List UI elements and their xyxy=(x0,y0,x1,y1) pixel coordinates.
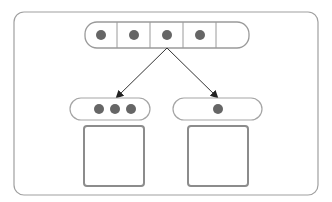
partition-item-dot xyxy=(110,104,120,114)
left-box xyxy=(84,126,144,186)
array-item-dot xyxy=(129,30,139,40)
source-array xyxy=(85,22,249,48)
diagram-canvas xyxy=(0,0,332,202)
array-item-dot xyxy=(162,30,172,40)
arrow-left xyxy=(117,48,167,97)
array-item-dot xyxy=(96,30,106,40)
partition-item-dot xyxy=(126,104,136,114)
right-partition xyxy=(173,98,262,186)
left-partition xyxy=(70,98,150,186)
right-box xyxy=(188,126,248,186)
partition-item-dot xyxy=(213,104,223,114)
partition-item-dot xyxy=(94,104,104,114)
arrow-right xyxy=(167,48,217,97)
array-item-dot xyxy=(195,30,205,40)
